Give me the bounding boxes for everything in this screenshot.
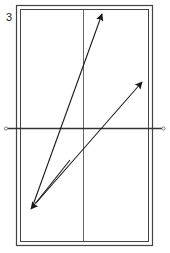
arrow-up-right-shallow (36, 82, 142, 203)
axis-end-right (162, 127, 165, 130)
arrow-down-left (31, 160, 70, 209)
arrow-up-right-steep (33, 14, 102, 205)
inner-frame (21, 10, 149, 242)
vector-diagram (0, 0, 170, 253)
axis-end-left (4, 127, 7, 130)
outer-frame (17, 6, 153, 246)
